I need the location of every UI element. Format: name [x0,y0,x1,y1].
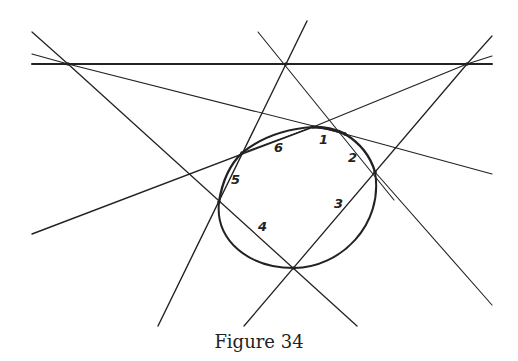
label-2: 2 [348,150,357,165]
line-a-p2 [68,64,345,134]
point-c [465,62,469,66]
line-a-p4 [68,64,357,326]
figure-caption: Figure 34 [0,331,518,352]
label-3: 3 [334,196,343,211]
line-b-p3 [258,32,394,200]
point-p1 [311,125,315,129]
label-1: 1 [319,132,328,147]
point-p3 [373,170,377,174]
point-p4 [292,266,296,270]
line-p5-lower-left [32,127,313,234]
point-p6 [240,151,244,155]
label-6: 6 [274,140,283,155]
line-p3-lower-right [375,172,492,305]
point-b [284,62,288,66]
point-p5 [217,200,221,204]
label-5: 5 [231,172,240,187]
projective-geometry-figure: 1 2 3 4 5 6 [0,0,518,361]
point-p2 [343,132,347,136]
line-c-p4 [244,64,467,326]
line-c-p1 [313,64,467,127]
point-a [66,62,70,66]
label-4: 4 [257,219,267,234]
